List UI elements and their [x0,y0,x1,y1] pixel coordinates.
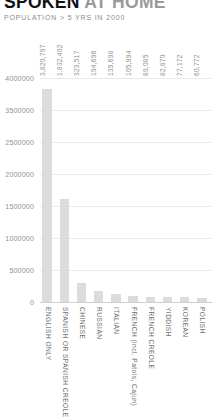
bar[interactable] [94,291,103,302]
x-axis-category-label: ENGLISH ONLY [45,307,52,361]
chart-page: SPOKEN AT HOME POPULATION > 5 YRS IN 200… [0,0,216,418]
category-label-slot: RUSSIAN [92,307,109,418]
category-label-slot: FRENCH (incl. Patois, Cajun) [126,307,143,418]
bar[interactable] [77,283,86,301]
x-axis-category-label: ITALIAN [114,307,121,335]
x-axis-category-label: CHINESE [79,307,86,339]
bar-value-label: 194,696 [90,50,97,76]
y-axis-tick-label: 500000 [0,266,34,273]
bar[interactable] [60,199,69,301]
bar-slot [143,79,160,302]
title-strong-text: SPOKEN [4,0,80,12]
y-axis-tick-label: 1500000 [0,202,34,209]
bar-slot [57,79,74,302]
value-label-slot: 60,772 [195,26,212,76]
bar-slot [109,79,126,302]
chart-subtitle: POPULATION > 5 YRS IN 2000 [4,14,216,21]
bar-group [40,79,212,302]
bar-slot [40,79,57,302]
bar-slot [74,79,91,302]
bar-value-label: 323,517 [73,50,80,76]
bar-value-label: 82,870 [159,54,166,76]
bar[interactable] [42,89,51,302]
bar-slot [178,79,195,302]
bar[interactable] [111,294,120,302]
bar-value-label: 60,772 [193,54,200,76]
x-axis-baseline [40,302,212,304]
y-axis-tick-label: 4000000 [0,75,34,82]
x-axis-category-label: FRENCH CREOLE [148,307,155,369]
x-axis-category-label: POLISH [200,307,207,334]
category-label-slot: KOREAN [178,307,195,418]
value-label-slot: 139,698 [109,26,126,76]
category-label-slot: ITALIAN [109,307,126,418]
x-axis-category-label: KOREAN [182,307,189,338]
x-axis-category-label: YIDDISH [165,307,172,337]
bar-value-label: 1,832,402 [55,44,62,76]
category-label-slot: CHINESE [74,307,91,418]
bar-slot [195,79,212,302]
bar-value-label: 77,172 [176,54,183,76]
bar-value-label: 105,994 [124,50,131,76]
category-label-slot: YIDDISH [160,307,177,418]
y-axis-tick-label: 2000000 [0,170,34,177]
x-axis-category-label: FRENCH (incl. Patois, Cajun) [131,307,138,406]
category-label-slot: ENGLISH ONLY [40,307,57,418]
category-label-group: ENGLISH ONLYSPANISH OR SPANISH CREOLECHI… [40,307,212,418]
category-label-slot: SPANISH OR SPANISH CREOLE [57,307,74,418]
chart-header: SPOKEN AT HOME POPULATION > 5 YRS IN 200… [4,0,216,21]
title-light-text: AT HOME [84,0,166,12]
y-axis-tick-label: 1000000 [0,234,34,241]
bar-value-label: 89,085 [141,54,148,76]
y-axis-tick-label: 2500000 [0,138,34,145]
value-label-group: 3,820,7971,832,402323,517194,696139,6981… [40,26,212,76]
bar-slot [126,79,143,302]
y-axis-tick-label: 0 [0,298,34,305]
value-label-slot: 3,820,797 [40,26,57,76]
value-label-slot: 105,994 [126,26,143,76]
category-label-slot: FRENCH CREOLE [143,307,160,418]
bar-slot [160,79,177,302]
bar-slot [92,79,109,302]
category-label-slot: POLISH [195,307,212,418]
plot-area: 4000000350000025000002000000150000010000… [40,78,212,303]
x-axis-category-label: RUSSIAN [96,307,103,339]
x-axis-category-label: SPANISH OR SPANISH CREOLE [62,307,69,418]
bar-value-label: 139,698 [107,50,114,76]
page-title: SPOKEN AT HOME [4,0,216,11]
y-axis-tick-label: 3500000 [0,106,34,113]
bar-value-label: 3,820,797 [38,44,45,76]
